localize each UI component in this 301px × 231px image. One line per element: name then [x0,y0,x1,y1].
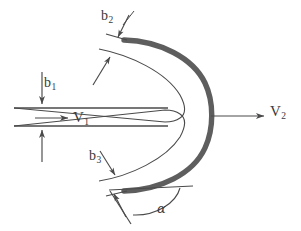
label-v2: V2 [270,104,286,121]
upper-splitter-tongue [14,108,180,122]
label-b3: b3 [89,149,101,165]
label-b3-base: b [89,148,96,163]
label-b2-base: b [101,8,108,23]
label-b1-base: b [44,75,51,90]
outer-wall-thick [124,40,212,191]
label-b2: b2 [101,9,113,25]
label-v1-base: V [73,109,84,125]
upper-inner-dimension-arrow [93,57,110,85]
label-v2-subscript: 2 [281,111,286,121]
label-alpha: α [157,202,166,215]
alpha-blade-line [110,191,131,224]
label-b1: b1 [44,76,56,92]
flow-bend-figure: b1 b2 b3 V1 V2 α [0,0,301,231]
upper-branch-outer-wall [106,34,127,40]
diagram-canvas [0,0,301,231]
label-v1-subscript: 1 [84,117,89,127]
b3-dimension-arrow [100,151,115,175]
b2-dimension-arrow [118,15,129,37]
label-b2-subscript: 2 [108,15,113,25]
label-v1: V1 [73,110,89,127]
label-b3-subscript: 3 [96,155,101,165]
b2-leader-tick [123,11,134,25]
label-b1-subscript: 1 [51,82,56,92]
label-v2-base: V [270,103,281,119]
